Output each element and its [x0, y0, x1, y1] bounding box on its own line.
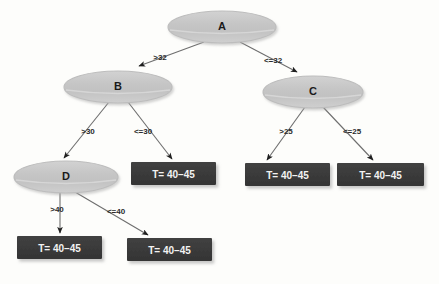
decision-tree-diagram: T= 40–45 T= 40–45 T= 40–45 T= 40–45 T= 4… — [0, 0, 439, 284]
edge-label-a-c: <=32 — [264, 56, 283, 65]
decision-node-d[interactable]: D — [14, 161, 118, 193]
decision-node-c[interactable]: C — [263, 76, 363, 108]
leaf-node-3[interactable]: T= 40–45 — [337, 163, 424, 186]
edge-label-b-d: >30 — [81, 127, 95, 136]
edge-label-c-leaf2: >25 — [279, 127, 293, 136]
node-label-c: C — [309, 85, 317, 97]
leaf-node-2[interactable]: T= 40–45 — [245, 163, 330, 186]
decision-node-b[interactable]: B — [64, 71, 172, 103]
leaf-label-3: T= 40–45 — [359, 170, 402, 181]
leaf-label-1: T= 40–45 — [152, 169, 195, 180]
decision-node-a[interactable]: A — [168, 11, 276, 43]
node-label-a: A — [218, 20, 226, 32]
leaf-node-5[interactable]: T= 40–45 — [127, 238, 212, 261]
edge-label-a-b: >32 — [153, 53, 167, 62]
leaf-label-2: T= 40–45 — [266, 170, 309, 181]
leaf-label-5: T= 40–45 — [148, 245, 191, 256]
edge-a-to-b — [139, 42, 204, 66]
leaf-node-1[interactable]: T= 40–45 — [131, 162, 216, 185]
tree-canvas: T= 40–45 T= 40–45 T= 40–45 T= 40–45 T= 4… — [0, 0, 439, 284]
node-label-b: B — [114, 80, 122, 92]
node-label-d: D — [62, 170, 70, 182]
leaf-label-4: T= 40–45 — [38, 243, 81, 254]
leaf-node-4[interactable]: T= 40–45 — [17, 236, 102, 259]
edge-label-d-leaf5: <=40 — [107, 207, 126, 216]
edge-label-d-leaf4: >40 — [50, 205, 64, 214]
edge-label-c-leaf3: <=25 — [343, 127, 362, 136]
edge-label-b-leaf1: <=30 — [134, 127, 153, 136]
